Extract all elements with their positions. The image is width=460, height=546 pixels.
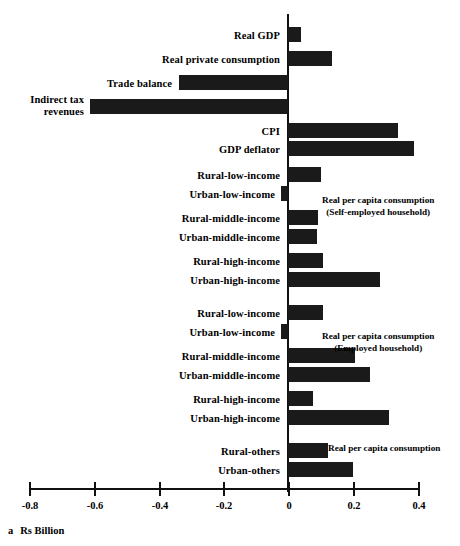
x-tick-3 [223,482,225,496]
label-emp-urban-high: Urban-high-income [150,413,280,424]
bar-real-gdp [288,27,301,42]
bar-emp-rural-high [288,391,313,406]
bar-trade-balance [179,75,288,90]
label-real-private-consumption: Real private consumption [120,54,280,65]
x-tick-label-3: -0.2 [216,500,233,511]
label-urban-others: Urban-others [170,465,280,476]
label-emp-urban-low: Urban-low-income [155,327,275,338]
label-cpi: CPI [180,126,280,137]
annotation-others-line1: Real per capita consumption [328,443,440,453]
bar-rural-others [288,443,328,458]
annotation-self-employed: Real per capita consumption (Self-employ… [322,194,434,218]
x-tick-label-2: -0.4 [152,500,169,511]
label-self-urban-low: Urban-low-income [155,189,275,200]
bar-self-rural-middle [288,210,318,225]
label-self-urban-middle: Urban-middle-income [140,232,280,243]
label-self-rural-low: Rural-low-income [160,170,280,181]
footnote-marker: a [8,525,13,536]
bar-emp-urban-high [288,410,389,425]
plot-area: Real GDP Real private consumption Trade … [0,0,460,500]
x-tick-4 [288,482,290,496]
bar-chart: Real GDP Real private consumption Trade … [0,0,460,546]
label-indirect-tax-line2: revenues [44,106,84,117]
bar-self-rural-low [288,167,321,182]
x-tick-label-0: -0.8 [22,500,39,511]
bar-self-urban-high [288,272,380,287]
bar-real-private-consumption [288,51,332,66]
x-tick-1 [94,482,96,496]
label-self-rural-high: Rural-high-income [150,256,280,267]
label-rural-others: Rural-others [170,446,280,457]
bar-emp-urban-low [281,324,288,339]
bar-emp-rural-low [288,305,323,320]
bar-self-urban-middle [288,229,317,244]
label-real-gdp: Real GDP [140,30,280,41]
label-emp-rural-low: Rural-low-income [160,308,280,319]
footnote-text: Rs Billion [20,525,64,536]
bar-self-urban-low [281,186,288,201]
bar-gdp-deflator [288,141,414,156]
label-emp-rural-middle: Rural-middle-income [140,351,280,362]
x-tick-label-4: 0 [286,500,291,511]
x-tick-6 [418,482,420,496]
label-trade-balance: Trade balance [30,78,172,89]
bar-cpi [288,123,398,138]
label-self-rural-middle: Rural-middle-income [140,213,280,224]
label-indirect-tax-revenues: Indirect tax revenues [2,94,84,117]
x-tick-5 [353,482,355,496]
label-indirect-tax-line1: Indirect tax [30,94,84,105]
annotation-self-employed-line2: (Self-employed household) [322,206,434,218]
x-tick-label-6: 0.4 [412,500,425,511]
annotation-employed-line2: (Employed household) [322,342,434,354]
bar-emp-urban-middle [288,367,370,382]
x-tick-label-1: -0.6 [87,500,104,511]
x-tick-0 [29,482,31,496]
annotation-others: Real per capita consumption [328,442,440,454]
label-self-urban-high: Urban-high-income [150,275,280,286]
x-tick-2 [159,482,161,496]
label-emp-rural-high: Rural-high-income [150,394,280,405]
x-tick-label-5: 0.2 [347,500,360,511]
bar-urban-others [288,462,353,477]
annotation-employed: Real per capita consumption (Employed ho… [322,330,434,354]
annotation-employed-line1: Real per capita consumption [322,331,434,341]
bar-indirect-tax-revenues [90,99,288,114]
bar-self-rural-high [288,253,323,268]
annotation-self-employed-line1: Real per capita consumption [322,195,434,205]
footnote: aRs Billion [8,525,64,536]
label-emp-urban-middle: Urban-middle-income [140,370,280,381]
label-gdp-deflator: GDP deflator [170,144,280,155]
